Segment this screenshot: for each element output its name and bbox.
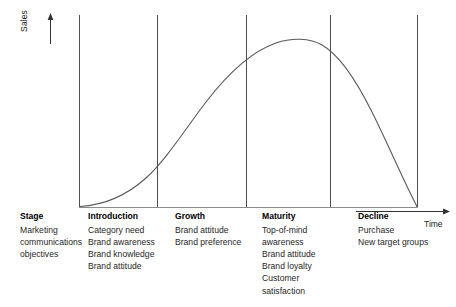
- stage-header: Decline: [358, 210, 456, 222]
- stage-item: awareness: [262, 236, 357, 248]
- stage-column-decline: Decline Purchase New target groups: [358, 210, 456, 248]
- stage-column-introduction: Introduction Category need Brand awarene…: [88, 210, 180, 272]
- stage-item: Brand attitude: [262, 248, 357, 260]
- stage-item: Customer: [262, 272, 357, 284]
- stage-item: Brand knowledge: [88, 248, 180, 260]
- stage-item: Brand attitude: [175, 224, 265, 236]
- stage-header: Maturity: [262, 210, 357, 222]
- sales-curve: [80, 39, 417, 206]
- stage-column-growth: Growth Brand attitude Brand preference: [175, 210, 265, 248]
- stage-header: Introduction: [88, 210, 180, 222]
- y-axis-label: Sales: [19, 0, 33, 51]
- stage-header: Growth: [175, 210, 265, 222]
- stage-item: New target groups: [358, 236, 456, 248]
- stage-item: Top-of-mind: [262, 224, 357, 236]
- stage-item: satisfaction: [262, 285, 357, 297]
- stage-item: Category need: [88, 224, 180, 236]
- lifecycle-plot: [0, 0, 456, 307]
- stage-column-maturity: Maturity Top-of-mind awareness Brand att…: [262, 210, 357, 297]
- stage-item: Purchase: [358, 224, 456, 236]
- product-lifecycle-diagram: Sales Time Stage Marketing communication…: [0, 0, 456, 307]
- sales-axis-arrowhead: [48, 13, 54, 20]
- stage-item: Brand awareness: [88, 236, 180, 248]
- stage-item: Brand loyalty: [262, 260, 357, 272]
- stage-item: Brand preference: [175, 236, 265, 248]
- stage-item: Brand attitude: [88, 260, 180, 272]
